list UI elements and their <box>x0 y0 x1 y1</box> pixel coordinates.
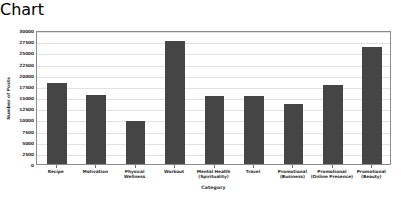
x-tick-mark <box>174 165 175 168</box>
bar <box>205 96 225 164</box>
x-tick-label: Motivation <box>82 169 108 174</box>
x-tick-label: Travel <box>246 169 260 174</box>
y-tick-label: 0 <box>8 163 34 168</box>
plot-area <box>36 31 391 165</box>
x-tick-label: Mental Health (Spirituality) <box>197 169 231 180</box>
y-tick-label: 15000 <box>8 96 34 101</box>
x-tick-mark <box>292 165 293 168</box>
x-tick-mark <box>332 165 333 168</box>
x-tick-mark <box>95 165 96 168</box>
bar <box>165 41 185 164</box>
y-tick-label: 30000 <box>8 29 34 34</box>
bar <box>244 96 264 164</box>
bar-chart-figure: Number of Posts 025005000750010000125001… <box>0 19 401 204</box>
y-tick-label: 12500 <box>8 107 34 112</box>
y-tick-label: 5000 <box>8 140 34 145</box>
y-tick-label: 20000 <box>8 73 34 78</box>
x-tick-label: Physical Wellness <box>124 169 145 180</box>
y-tick-label: 22500 <box>8 62 34 67</box>
x-tick-label: Workout <box>164 169 184 174</box>
y-tick-label: 17500 <box>8 84 34 89</box>
y-tick-label: 25000 <box>8 51 34 56</box>
bar <box>284 104 304 164</box>
x-tick-mark <box>56 165 57 168</box>
x-axis-title: Category <box>36 185 391 190</box>
x-tick-mark <box>135 165 136 168</box>
bar <box>86 95 106 164</box>
x-tick-mark <box>253 165 254 168</box>
x-tick-mark <box>371 165 372 168</box>
y-axis-tick-labels: 0250050007500100001250015000175002000022… <box>8 31 34 165</box>
x-tick-label: Recipe <box>48 169 64 174</box>
y-tick-label: 2500 <box>8 151 34 156</box>
x-tick-label: Promotional (Beauty) <box>357 169 386 180</box>
y-tick-label: 10000 <box>8 118 34 123</box>
x-tick-label: Promotional (Online Presence) <box>311 169 353 180</box>
bar <box>126 121 146 164</box>
x-tick-mark <box>214 165 215 168</box>
bar <box>362 47 382 164</box>
bar <box>47 83 67 164</box>
x-tick-label: Promotional (Business) <box>278 169 307 180</box>
bar <box>323 85 343 164</box>
y-tick-label: 7500 <box>8 129 34 134</box>
bar-series <box>37 32 390 164</box>
y-tick-label: 27500 <box>8 40 34 45</box>
